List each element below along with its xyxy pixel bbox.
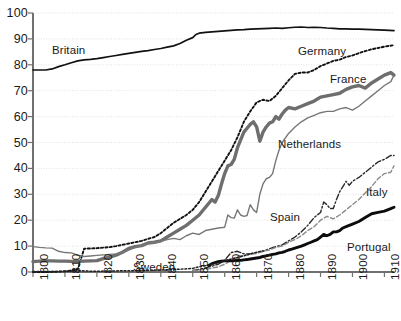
x-tick-label: 1870 (262, 254, 274, 280)
y-tick-label: 10 (0, 240, 28, 252)
y-tick-label: 20 (0, 214, 28, 226)
series-label-sweden: Sweden (133, 261, 175, 273)
x-tick-label: 1900 (357, 254, 369, 280)
x-tick-label: 1820 (102, 254, 114, 280)
x-tick-label: 1850 (198, 254, 210, 280)
y-tick-label: 90 (0, 33, 28, 45)
series-label-spain: Spain (270, 211, 300, 223)
chart-container: 0102030405060708090100 18001810182018301… (0, 0, 401, 321)
series-label-italy: Italy (366, 186, 388, 198)
series-label-germany: Germany (298, 45, 346, 57)
y-tick-label: 50 (0, 137, 28, 149)
x-tick-label: 1890 (326, 254, 338, 280)
y-tick-label: 30 (0, 188, 28, 200)
series-label-netherlands: Netherlands (278, 138, 341, 150)
series-label-portugal: Portugal (347, 241, 391, 253)
y-tick-label: 40 (0, 162, 28, 174)
x-tick-label: 1800 (38, 254, 50, 280)
series-line-france (33, 73, 394, 262)
x-tick-label: 1810 (70, 254, 82, 280)
y-tick-label: 100 (0, 7, 28, 19)
y-tick-label: 60 (0, 111, 28, 123)
y-tick-label: 0 (0, 266, 28, 278)
x-tick-label: 1860 (230, 254, 242, 280)
series-label-france: France (330, 73, 366, 85)
y-tick-label: 70 (0, 85, 28, 97)
series-label-britain: Britain (52, 44, 85, 56)
x-tick-label: 1880 (294, 254, 306, 280)
x-tick-label: 1910 (389, 254, 401, 280)
y-tick-label: 80 (0, 59, 28, 71)
